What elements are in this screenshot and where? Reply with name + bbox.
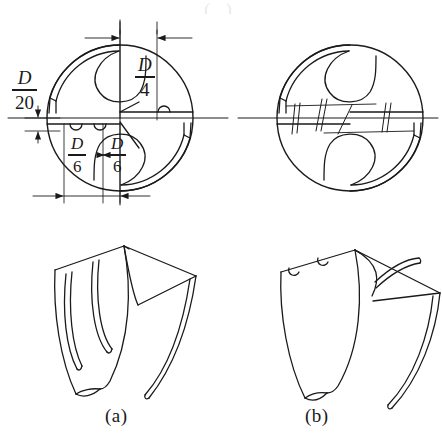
iso-a-groove-1-inner: [70, 272, 82, 366]
d6-right-numerator: D: [108, 135, 126, 153]
flute-curve-right-upper: [325, 51, 376, 102]
land-arc-right-upper-outer: [280, 45, 350, 98]
land-end-right-upper: [280, 98, 286, 101]
notch-arc-upper-1: [158, 106, 170, 112]
dimension-label-d20: D 20: [12, 68, 37, 112]
land-end-upper-left: [50, 98, 56, 101]
d6-left-fraction-bar: [68, 154, 86, 156]
d6-left-numerator: D: [68, 135, 86, 153]
notch-arc-lower-1: [70, 124, 82, 130]
iso-a-right-facet-edge: [124, 246, 138, 305]
iso-b-right-land-tip: [388, 405, 392, 409]
land-arc-lower-right-inner: [121, 135, 184, 185]
d4-fraction-bar: [135, 76, 155, 78]
iso-a-groove-2-inner: [98, 260, 112, 349]
caption-a: (a): [105, 405, 128, 427]
flute-curve-right-lower: [324, 134, 375, 185]
notch-arc-lower-2: [94, 124, 106, 130]
iso-a-right-land-inner: [145, 279, 190, 395]
land-end-lower-right: [184, 135, 190, 138]
d6-right-denominator: 6: [108, 157, 126, 175]
relief-line-2a: [316, 99, 322, 131]
d6-right-fraction-bar: [108, 154, 126, 156]
view-top-right: [238, 45, 438, 191]
engineering-drawing-figure: [0, 0, 442, 442]
land-arc-lower-right-outer: [120, 138, 190, 191]
d4-numerator: D: [135, 55, 155, 75]
iso-b-facet-line: [373, 293, 440, 301]
relief-band-lower: [324, 131, 414, 133]
iso-a-groove-1-tip: [77, 366, 82, 370]
land-arc-right-lower-inner: [351, 135, 414, 185]
relief-line-2b: [321, 99, 327, 131]
d20-denominator: 20: [12, 92, 37, 112]
view-top-left: [8, 20, 228, 205]
iso-b-left-edge: [281, 272, 305, 398]
land-arc-right-lower-outer: [350, 138, 420, 191]
view-bottom-right-isometric: [281, 250, 440, 409]
relief-line-3: [338, 105, 352, 134]
relief-line-1a: [292, 104, 295, 134]
iso-b-face-curve: [327, 250, 359, 393]
iso-a-top-ridge-left: [55, 246, 124, 270]
d4-denominator: 4: [135, 79, 155, 99]
dimension-label-d6-left: D 6: [68, 135, 86, 175]
chisel-edge-left: [120, 102, 139, 112]
iso-a-face-curve: [100, 246, 128, 389]
d20-numerator: D: [12, 68, 37, 88]
dimension-label-d6-right: D 6: [108, 135, 126, 175]
iso-a-groove-2-tip: [107, 349, 112, 353]
land-arc-upper-left-inner: [56, 51, 119, 101]
land-arc-upper-left-outer: [50, 45, 120, 98]
dimension-label-d4: D 4: [135, 55, 155, 99]
iso-a-right-land-tip: [145, 395, 149, 399]
d20-fraction-bar: [12, 89, 37, 91]
land-end-right-lower: [414, 135, 420, 138]
d6-left-denominator: 6: [68, 157, 86, 175]
land-arc-right-upper-inner: [286, 51, 349, 101]
iso-b-relief-cap: [419, 258, 421, 263]
iso-a-right-facet-line: [138, 276, 196, 305]
caption-b: (b): [305, 405, 329, 427]
iso-a-top-ridge-right: [124, 246, 196, 276]
view-bottom-left-isometric: [55, 246, 196, 399]
